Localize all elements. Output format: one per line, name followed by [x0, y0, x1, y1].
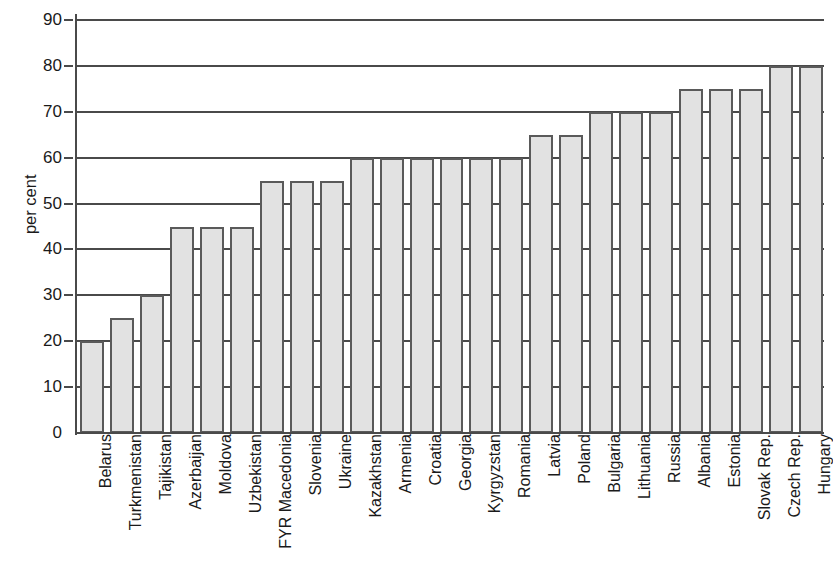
bar [799, 66, 823, 433]
x-tick-label-wrap: Tajikistan [158, 434, 174, 504]
x-tick-label: Kazakhstan [368, 434, 384, 522]
x-tick-label: Uzbekistan [248, 434, 264, 517]
x-tick-label: Albania [697, 434, 713, 491]
bar [529, 135, 553, 433]
tick-mark-20 [64, 340, 73, 342]
y-tick-label: 70 [16, 103, 62, 120]
bar [110, 318, 134, 433]
x-tick-label: Lithuania [637, 434, 653, 503]
bar [499, 158, 523, 433]
x-tick-label-wrap: Moldova [218, 434, 234, 498]
x-tick-label-wrap: Czech Rep. [787, 434, 803, 522]
tick-mark-10 [64, 386, 73, 388]
x-tick-label-wrap: Slovenia [308, 434, 324, 499]
x-tick-label: Slovak Rep. [757, 434, 773, 524]
tick-mark-90 [64, 19, 73, 21]
x-tick-label: Armenia [398, 434, 414, 498]
x-tick-label: Azerbaijan [188, 434, 204, 514]
bar [380, 158, 404, 433]
bar [469, 158, 493, 433]
y-tick-label: 30 [16, 286, 62, 303]
x-tick-label-wrap: Armenia [398, 434, 414, 498]
bar [200, 227, 224, 434]
x-tick-label-wrap: Lithuania [637, 434, 653, 503]
x-tick-label-wrap: Kazakhstan [368, 434, 384, 522]
x-tick-label: Georgia [458, 434, 474, 495]
x-tick-label-wrap: Croatia [428, 434, 444, 490]
bar [260, 181, 284, 433]
bar [739, 89, 763, 433]
y-tick-label: 40 [16, 240, 62, 257]
plot-area [75, 20, 824, 433]
x-tick-label-wrap: Estonia [727, 434, 743, 491]
x-tick-label: Tajikistan [158, 434, 174, 504]
tick-mark-70 [64, 111, 73, 113]
bar [649, 112, 673, 433]
bar [320, 181, 344, 433]
x-tick-label-wrap: Turkmenistan [128, 434, 144, 534]
y-tick-label: 10 [16, 378, 62, 395]
y-tick-label: 50 [16, 195, 62, 212]
y-tick-label: 90 [16, 11, 62, 28]
bar [410, 158, 434, 433]
bar [350, 158, 374, 433]
y-tick-label: 0 [16, 424, 62, 441]
x-tick-label-wrap: Uzbekistan [248, 434, 264, 517]
x-tick-label: Belarus [98, 434, 114, 492]
x-tick-label: Romania [517, 434, 533, 502]
x-tick-label-wrap: Russia [667, 434, 683, 487]
gridline-80 [75, 65, 824, 67]
bar [589, 112, 613, 433]
x-tick-label-wrap: Azerbaijan [188, 434, 204, 514]
x-tick-label: Moldova [218, 434, 234, 498]
x-tick-label: Russia [667, 434, 683, 487]
tick-mark-50 [64, 203, 73, 205]
x-tick-label-wrap: Albania [697, 434, 713, 491]
x-tick-label: Croatia [428, 434, 444, 490]
x-tick-label-wrap: Hungary [817, 434, 833, 498]
bar [80, 341, 104, 433]
x-tick-label: Poland [577, 434, 593, 488]
bar [290, 181, 314, 433]
x-tick-label: Turkmenistan [128, 434, 144, 534]
tick-mark-40 [64, 248, 73, 250]
x-axis-category-labels: BelarusTurkmenistanTajikistanAzerbaijanM… [75, 434, 824, 577]
x-tick-label: Estonia [727, 434, 743, 491]
x-tick-label: Kyrgyzstan [487, 434, 503, 517]
x-tick-label-wrap: Poland [577, 434, 593, 488]
x-tick-label-wrap: Ukraine [338, 434, 354, 493]
bar [170, 227, 194, 434]
bar [769, 66, 793, 433]
gridline-90 [75, 19, 824, 21]
bar [140, 295, 164, 433]
tick-mark-30 [64, 294, 73, 296]
bar [679, 89, 703, 433]
x-tick-label-wrap: Latvia [547, 434, 563, 481]
x-tick-label-wrap: Kyrgyzstan [487, 434, 503, 517]
tick-mark-60 [64, 157, 73, 159]
x-tick-label-wrap: Belarus [98, 434, 114, 492]
x-tick-label-wrap: Romania [517, 434, 533, 502]
y-tick-label: 20 [16, 332, 62, 349]
bar [709, 89, 733, 433]
bar [230, 227, 254, 434]
x-tick-label: FYR Macedonia [278, 434, 294, 553]
x-tick-label: Czech Rep. [787, 434, 803, 522]
x-tick-label: Hungary [817, 434, 833, 498]
y-tick-label: 60 [16, 149, 62, 166]
tick-mark-80 [64, 65, 73, 67]
x-tick-label-wrap: Georgia [458, 434, 474, 495]
x-tick-label-wrap: Slovak Rep. [757, 434, 773, 524]
x-tick-label: Latvia [547, 434, 563, 481]
x-tick-label: Slovenia [308, 434, 324, 499]
bar [619, 112, 643, 433]
x-tick-label-wrap: FYR Macedonia [278, 434, 294, 553]
y-axis-ticks: 0102030405060708090 [0, 20, 62, 433]
y-tick-label: 80 [16, 57, 62, 74]
x-tick-label: Ukraine [338, 434, 354, 493]
x-tick-label-wrap: Bulgaria [607, 434, 623, 497]
x-tick-label: Bulgaria [607, 434, 623, 497]
bar [440, 158, 464, 433]
bar [559, 135, 583, 433]
